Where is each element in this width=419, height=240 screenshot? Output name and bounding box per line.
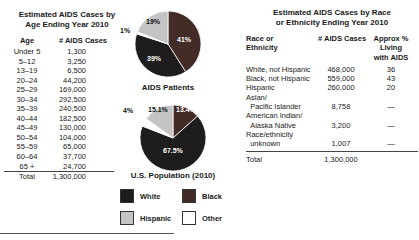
total-label: Total <box>4 172 50 182</box>
cases-cell: 65,000 <box>50 142 114 152</box>
pct-cell: — <box>364 102 418 111</box>
table-row: 40–44182,500 <box>4 114 114 124</box>
legend-item-black: Black <box>182 189 244 203</box>
age-table-rows: Under 51,300 5–123,250 13–196,500 20–244… <box>4 47 130 182</box>
cases-cell: 130,000 <box>50 123 114 133</box>
pie2-caption: U.S. Population (2010) <box>117 171 229 180</box>
legend-label: Hispanic <box>140 214 171 223</box>
cases-cell: 292,500 <box>50 95 114 105</box>
age-cell: 20–24 <box>4 76 50 86</box>
age-cell: 35–39 <box>4 104 50 114</box>
legend-label: White <box>140 192 160 201</box>
pie2-black-label: 13.4% <box>176 106 196 114</box>
age-cell: 45–49 <box>4 123 50 133</box>
black-swatch <box>182 189 196 203</box>
table-row: 60–6437,700 <box>4 152 114 162</box>
cases-cell: 1,300 <box>50 47 114 57</box>
table-row: 5–123,250 <box>4 57 114 67</box>
race-cell: Black, not Hispanic <box>246 74 318 83</box>
race-table-header: Race or Ethnicity # AIDS Cases Approx % … <box>246 34 418 62</box>
legend-item-white: White <box>120 189 182 203</box>
race-column-header: Race or Ethnicity <box>246 34 318 53</box>
cases-cell: 468,000 <box>318 65 364 74</box>
table-row: 25–29169,000 <box>4 85 114 95</box>
race-cell: Hispanic <box>246 83 318 92</box>
age-table: Estimated AIDS Cases by Age Ending Year … <box>4 10 130 182</box>
cases-cell: 1,007 <box>318 139 364 148</box>
pie2-other-label: 4% <box>123 107 133 115</box>
us-population-pie-chart <box>139 104 207 172</box>
pie1-black-label: 41% <box>177 36 191 44</box>
total-value: 1,300,000 <box>318 155 364 164</box>
race-table-rows: White, not Hispanic468,00036 Black, not … <box>246 65 418 149</box>
cases-cell: 44,200 <box>50 76 114 86</box>
cases-cell: 8,758 <box>318 102 364 111</box>
cases-cell: 182,500 <box>50 114 114 124</box>
cases-cell: 37,700 <box>50 152 114 162</box>
pie2-hispanic-label: 15.1% <box>148 106 168 114</box>
table-row: 20–2444,200 <box>4 76 114 86</box>
cases-cell: 3,250 <box>50 57 114 67</box>
age-cell: 40–44 <box>4 114 50 124</box>
table-row: Race/ethnicity unknown1,007— <box>246 130 418 149</box>
table-row: Hispanic260,00020 <box>246 83 418 92</box>
race-legend: White Black Hispanic Other <box>120 189 244 225</box>
pct-cell: 43 <box>364 74 418 83</box>
cases-cell: 169,000 <box>50 85 114 95</box>
cases-column-header: # AIDS Cases <box>50 36 130 45</box>
table-row: White, not Hispanic468,00036 <box>246 65 418 74</box>
cases-cell: 104,000 <box>50 133 114 143</box>
table-row: 35–39240,500 <box>4 104 114 114</box>
race-table-title: Estimated AIDS Cases by Race or Ethnicit… <box>246 8 418 27</box>
race-cell: American Indian/ Alaska Native <box>246 111 318 130</box>
race-cell: Race/ethnicity unknown <box>246 130 318 149</box>
legend-label: Black <box>202 192 222 201</box>
total-value: 1,300,000 <box>50 172 114 182</box>
legend-item-hispanic: Hispanic <box>120 211 182 225</box>
table-row: Black, not Hispanic559,00043 <box>246 74 418 83</box>
pie1-hispanic-label: 19% <box>146 18 160 26</box>
pct-cell: — <box>364 139 418 148</box>
table-row: 45–49130,000 <box>4 123 114 133</box>
legend-item-other: Other <box>182 211 244 225</box>
pct-cell: 20 <box>364 83 418 92</box>
race-cell: Asian/ Pacific Islander <box>246 93 318 112</box>
cases-cell: 6,500 <box>50 66 114 76</box>
table-row: American Indian/ Alaska Native3,200— <box>246 111 418 130</box>
legend-label: Other <box>202 214 222 223</box>
pct-cell: 36 <box>364 65 418 74</box>
age-cell: 65 + <box>4 162 50 172</box>
age-cell: 60–64 <box>4 152 50 162</box>
age-cell: 30–34 <box>4 95 50 105</box>
page-edge-rule <box>0 233 174 234</box>
total-divider <box>246 151 418 152</box>
cases-cell: 260,000 <box>318 83 364 92</box>
pct-cell: — <box>364 121 418 130</box>
age-cell: 55–59 <box>4 142 50 152</box>
table-row: 30–34292,500 <box>4 95 114 105</box>
age-table-header: Age # AIDS Cases <box>4 36 130 45</box>
pie1-white-label: 39% <box>147 55 161 63</box>
age-cell: 13–19 <box>4 66 50 76</box>
table-row: Under 51,300 <box>4 47 114 57</box>
age-cell: 25–29 <box>4 85 50 95</box>
total-row: Total1,300,000 <box>4 171 114 182</box>
white-swatch <box>120 189 134 203</box>
table-row: Asian/ Pacific Islander8,758— <box>246 93 418 112</box>
age-column-header: Age <box>4 36 50 45</box>
age-cell: 50–54 <box>4 133 50 143</box>
race-cell: White, not Hispanic <box>246 65 318 74</box>
table-row: 13–196,500 <box>4 66 114 76</box>
table-row: 50–54104,000 <box>4 133 114 143</box>
age-cell: 5–12 <box>4 57 50 67</box>
race-table: Estimated AIDS Cases by Race or Ethnicit… <box>246 8 418 164</box>
hispanic-swatch <box>120 211 134 225</box>
age-cell: Under 5 <box>4 47 50 57</box>
pie2-white-label: 67.5% <box>163 147 183 155</box>
cases-column-header: # AIDS Cases <box>318 34 364 43</box>
other-swatch <box>182 211 196 225</box>
pie1-caption: AIDS Patients <box>128 83 208 92</box>
total-label: Total <box>246 155 318 164</box>
cases-cell: 3,200 <box>318 121 364 130</box>
table-row: 55–5965,000 <box>4 142 114 152</box>
